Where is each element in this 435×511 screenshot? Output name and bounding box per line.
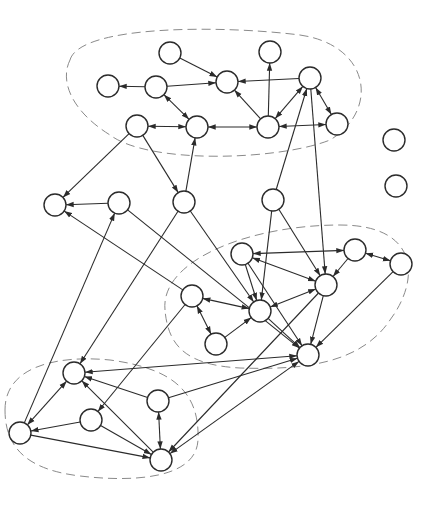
node-V	[297, 344, 319, 366]
edge-P-S	[252, 258, 315, 281]
node-W	[63, 362, 85, 384]
edge-G-M	[143, 135, 178, 192]
node-Y	[80, 409, 102, 431]
node-O	[262, 189, 284, 211]
node-H	[186, 116, 208, 138]
edge-F-E	[238, 79, 299, 82]
edge-F-S	[311, 89, 325, 274]
edge-X-W	[84, 377, 147, 398]
edge-A-E	[180, 58, 217, 77]
edge-S-V	[311, 296, 324, 345]
node-X	[147, 390, 169, 412]
edge-S-T	[270, 289, 316, 307]
edge-I-B	[268, 63, 269, 116]
node-G	[126, 115, 148, 137]
edge-O-F	[276, 89, 307, 190]
edge-I-J	[279, 125, 326, 127]
node-Q	[344, 239, 366, 261]
edge-G-K	[63, 134, 129, 198]
node-U	[205, 333, 227, 355]
node-L	[108, 192, 130, 214]
node-R	[390, 253, 412, 275]
edge-D-E	[167, 83, 216, 86]
edge-L-K	[66, 203, 108, 204]
edge-N-T	[203, 298, 250, 308]
edge-L-V	[128, 210, 300, 348]
node-D	[145, 76, 167, 98]
node-AA	[150, 449, 172, 471]
edge-Z-L	[24, 213, 114, 423]
edge-Q-R	[366, 253, 391, 261]
edge-D-H	[164, 95, 189, 120]
node-ISO2	[385, 175, 407, 197]
node-M	[173, 191, 195, 213]
node-I	[257, 116, 279, 138]
edge-S-AA	[169, 293, 319, 452]
node-T	[249, 300, 271, 322]
node-J	[326, 113, 348, 135]
node-ISO1	[383, 129, 405, 151]
edge-Q-S	[333, 259, 348, 277]
node-N	[181, 285, 203, 307]
edge-M-W	[80, 211, 178, 363]
node-Z	[9, 422, 31, 444]
edge-O-S	[279, 209, 320, 275]
edge-M-H	[186, 138, 195, 191]
edge-V-W	[85, 356, 297, 372]
node-K	[44, 194, 66, 216]
edge-T-V	[268, 318, 300, 347]
node-A	[159, 42, 181, 64]
node-F	[299, 67, 321, 89]
edge-AA-V	[170, 361, 299, 453]
edge-X-AA	[159, 412, 161, 449]
edge-I-E	[234, 90, 260, 119]
nodes	[9, 41, 412, 471]
edge-N-U	[197, 306, 211, 334]
edge-D-C	[119, 86, 145, 87]
node-E	[216, 71, 238, 93]
directed-graph-diagram	[0, 0, 435, 511]
edge-P-T	[245, 265, 256, 301]
node-S	[315, 274, 337, 296]
edge-N-K	[64, 211, 183, 290]
edge-F-J	[316, 88, 332, 115]
edge-Z-AA	[31, 435, 150, 458]
edge-G-H	[148, 126, 186, 127]
edge-U-T	[225, 318, 251, 338]
node-C	[97, 75, 119, 97]
node-B	[259, 41, 281, 63]
node-P	[231, 243, 253, 265]
edge-Y-Z	[31, 422, 80, 431]
